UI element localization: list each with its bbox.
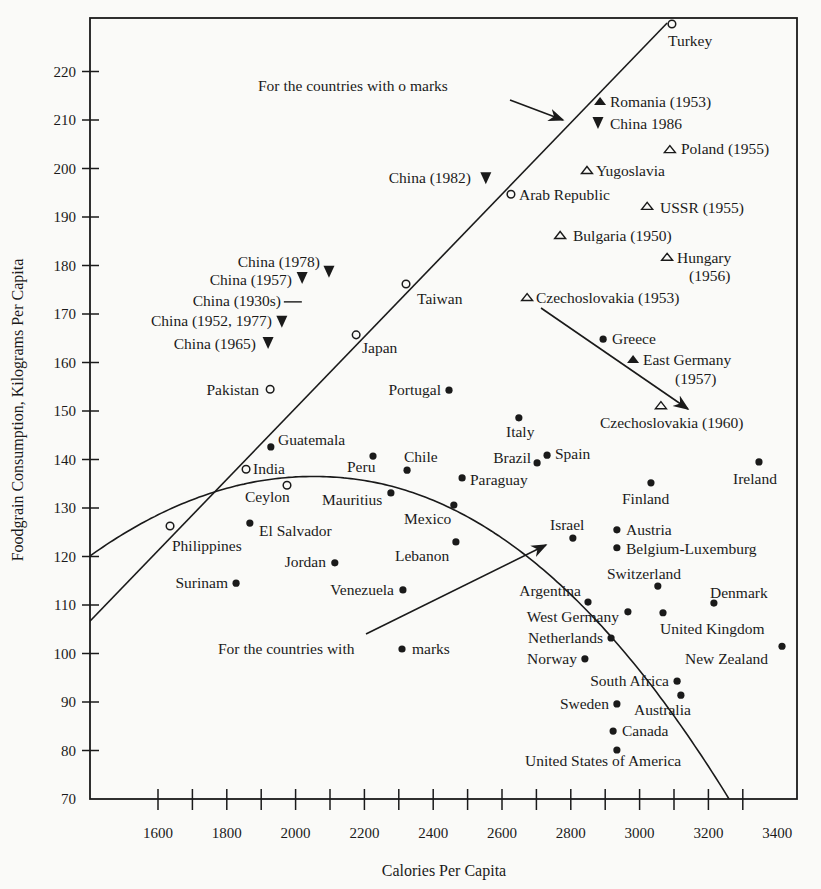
x-tick-label: 3000 xyxy=(625,825,655,841)
point-label: China (1957) xyxy=(210,271,292,289)
point-label: Belgium-Luxemburg xyxy=(626,540,757,557)
point-label: Romania (1953) xyxy=(610,93,711,111)
filled-triangle-down-marker xyxy=(276,316,287,328)
data-point: Netherlands xyxy=(528,629,615,646)
point-label: East Germany xyxy=(643,351,731,368)
filled-triangle-up-marker xyxy=(627,355,639,363)
y-tick-label: 220 xyxy=(54,64,77,80)
point-label: Sweden xyxy=(560,695,609,712)
filled-circle-marker xyxy=(647,479,654,486)
data-point: Japan xyxy=(352,331,397,356)
filled-circle-marker xyxy=(331,559,338,566)
y-tick-label: 140 xyxy=(54,452,77,468)
x-tick-label: 2000 xyxy=(281,825,311,841)
x-axis-ticks: 1600180020002200240026002800300032003400 xyxy=(143,789,792,841)
data-point: China 1986 xyxy=(592,115,682,132)
data-point: Denmark xyxy=(710,584,768,607)
data-point: Australia xyxy=(634,692,691,718)
data-point: East Germany(1957) xyxy=(627,351,731,388)
data-point: Sweden xyxy=(560,695,621,712)
point-label: Bulgaria (1950) xyxy=(573,227,672,245)
y-tick-label: 200 xyxy=(54,161,77,177)
data-point: Switzerland xyxy=(607,565,681,590)
open-triangle-up-marker xyxy=(555,231,566,238)
point-label: Spain xyxy=(555,445,591,462)
point-label: Jordan xyxy=(285,553,327,570)
data-point: South Africa xyxy=(590,672,680,689)
open-triangle-up-marker xyxy=(662,253,673,260)
data-point: Turkey xyxy=(668,20,712,49)
x-tick-label: 3400 xyxy=(762,825,792,841)
point-label: Argentina xyxy=(519,582,581,599)
filled-triangle-down-marker xyxy=(480,172,491,184)
annotation-text: For the countries with xyxy=(218,640,355,657)
data-point: USSR (1955) xyxy=(642,199,744,217)
filled-circle-marker xyxy=(755,458,762,465)
y-axis-title: Foodgrain Consumption, Kilograms Per Cap… xyxy=(9,259,27,562)
data-point: Ireland xyxy=(733,458,777,487)
annotation-text: marks xyxy=(412,640,450,657)
filled-circle-marker xyxy=(677,692,684,699)
data-point: United Kingdom xyxy=(659,609,764,637)
point-label: USSR (1955) xyxy=(660,199,744,217)
filled-circle-marker xyxy=(387,489,394,496)
annotation-text: For the countries with o marks xyxy=(258,77,448,94)
data-point: Ceylon xyxy=(245,481,291,505)
point-label: Peru xyxy=(347,458,376,475)
filled-circle-marker xyxy=(569,534,576,541)
x-tick-label: 3200 xyxy=(693,825,723,841)
point-label: United States of America xyxy=(525,752,681,769)
point-label: El Salvador xyxy=(259,522,333,539)
point-label: Guatemala xyxy=(278,431,345,448)
filled-circle-marker xyxy=(613,700,620,707)
x-tick-label: 1600 xyxy=(143,825,173,841)
point-label: Portugal xyxy=(388,381,441,398)
point-label: Czechoslovakia (1953) xyxy=(536,289,679,307)
data-point: India xyxy=(242,460,285,477)
x-tick-label: 2400 xyxy=(418,825,448,841)
point-label: Poland (1955) xyxy=(681,140,769,158)
data-point: Portugal xyxy=(388,381,452,398)
y-tick-label: 120 xyxy=(54,549,77,565)
open-circle-marker xyxy=(266,385,274,393)
data-point: Belgium-Luxemburg xyxy=(613,540,757,557)
point-label: Israel xyxy=(550,516,584,533)
filled-circle-marker xyxy=(581,655,588,662)
filled-circle-marker xyxy=(458,474,465,481)
data-point: Austria xyxy=(613,521,671,538)
point-label: Arab Republic xyxy=(519,186,610,203)
x-tick-label: 2200 xyxy=(349,825,379,841)
x-tick-label: 2800 xyxy=(556,825,586,841)
y-tick-label: 70 xyxy=(61,791,76,807)
data-point: Italy xyxy=(506,414,535,440)
filled-circle-marker xyxy=(445,387,452,394)
point-label-line2: (1957) xyxy=(675,370,716,388)
filled-circle-marker xyxy=(659,609,666,616)
data-point: Bulgaria (1950) xyxy=(555,227,672,245)
data-point: Poland (1955) xyxy=(664,140,769,158)
filled-circle-marker xyxy=(450,501,457,508)
y-tick-label: 150 xyxy=(54,403,77,419)
filled-circle-marker xyxy=(232,580,239,587)
data-point: Mexico xyxy=(404,501,457,527)
y-tick-label: 80 xyxy=(61,743,76,759)
data-point: Yugoslavia xyxy=(581,162,665,179)
filled-circle-marker xyxy=(600,336,607,343)
point-label: Japan xyxy=(362,339,398,356)
data-point: China (1957) xyxy=(210,271,308,289)
data-point: Venezuela xyxy=(330,581,406,598)
y-tick-label: 170 xyxy=(54,306,77,322)
point-label: Switzerland xyxy=(607,565,681,582)
data-point: China (1982) xyxy=(389,169,492,187)
x-tick-label: 2600 xyxy=(487,825,517,841)
point-label: Chile xyxy=(404,448,438,465)
point-label: Ceylon xyxy=(245,488,290,505)
point-label: India xyxy=(253,460,285,477)
data-point: Czechoslovakia (1960) xyxy=(600,402,743,432)
filled-circle-marker xyxy=(399,586,406,593)
point-label: Finland xyxy=(622,490,670,507)
point-label: China (1982) xyxy=(389,169,471,187)
point-label: Mexico xyxy=(404,510,452,527)
data-point: Lebanon xyxy=(395,538,460,564)
filled-triangle-down-marker xyxy=(323,266,334,278)
